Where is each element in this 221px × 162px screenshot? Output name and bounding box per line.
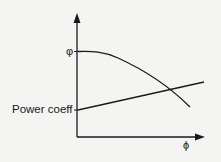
- y-axis-arrow-icon: [74, 13, 81, 23]
- phi-curve: [78, 51, 190, 107]
- diagram-canvas: [0, 0, 221, 162]
- power-coeff-label: Power coeff: [12, 104, 73, 116]
- x-axis-label: ϕ: [183, 140, 189, 151]
- diagram: φ ϕ Power coeff: [0, 0, 221, 162]
- phi-y-label: φ: [66, 46, 73, 57]
- power-coeff-line: [78, 82, 204, 110]
- x-axis-arrow-icon: [195, 134, 205, 141]
